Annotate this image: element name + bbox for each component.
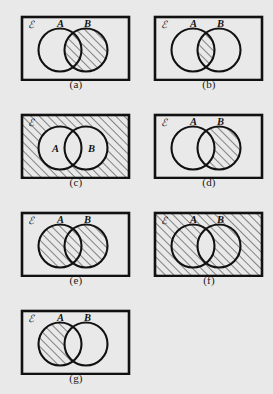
venn-panel-c-graphic: ℰ A B (17, 103, 135, 179)
set-b-label-g: B (83, 312, 91, 323)
venn-caption-d: (d) (150, 176, 268, 188)
venn-diagram-figure: ℰ A B (a) (0, 0, 273, 394)
set-b-label-b: B (216, 18, 224, 29)
set-a-label-d: A (189, 116, 197, 127)
set-b-label-f: B (216, 214, 224, 225)
venn-panel-e-graphic: ℰ A B (17, 201, 135, 277)
set-b-label-e: B (83, 214, 91, 225)
set-a-label-b: A (189, 18, 197, 29)
universe-label-e: ℰ (28, 215, 35, 226)
set-b-label-d: B (216, 116, 224, 127)
venn-caption-e: (e) (17, 274, 135, 286)
venn-caption-g: (g) (17, 372, 135, 384)
universe-label-d: ℰ (161, 117, 168, 128)
set-a-label-f: A (189, 214, 197, 225)
venn-panel-g-graphic: ℰ A B (17, 299, 135, 375)
venn-panel-d: ℰ A B (150, 103, 268, 179)
venn-panel-f-graphic: ℰ A B (150, 201, 268, 277)
venn-caption-a: (a) (17, 78, 135, 90)
set-a-label-a: A (56, 18, 64, 29)
venn-panel-a-graphic: ℰ A B (17, 5, 135, 81)
venn-caption-b: (b) (150, 78, 268, 90)
venn-panel-g: ℰ A B (17, 299, 135, 375)
venn-panel-a: ℰ A B (17, 5, 135, 81)
set-a-label-g: A (56, 312, 64, 323)
universe-label-c: ℰ (28, 117, 35, 128)
venn-caption-f: (f) (150, 274, 268, 286)
venn-panel-b: ℰ A B (150, 5, 268, 81)
set-a-label-c: A (51, 143, 59, 154)
venn-panel-b-graphic: ℰ A B (150, 5, 268, 81)
set-b-label-a: B (83, 18, 91, 29)
universe-label-a: ℰ (28, 19, 35, 30)
universe-label-b: ℰ (161, 19, 168, 30)
venn-panel-d-graphic: ℰ A B (150, 103, 268, 179)
set-b-label-c: B (87, 143, 95, 154)
universe-label-f: ℰ (161, 215, 168, 226)
venn-panel-e: ℰ A B (17, 201, 135, 277)
venn-panel-f: ℰ A B (150, 201, 268, 277)
venn-caption-c: (c) (17, 176, 135, 188)
venn-panel-c: ℰ A B (17, 103, 135, 179)
universe-label-g: ℰ (28, 313, 35, 324)
set-a-label-e: A (56, 214, 64, 225)
